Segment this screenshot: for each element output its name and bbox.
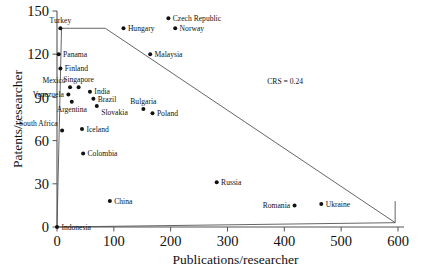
data-point-label: Indonesia — [61, 223, 91, 232]
chart-annotations: CRS = 0.24 — [267, 77, 303, 86]
x-tick-label: 500 — [330, 233, 352, 249]
data-point-dot — [57, 52, 61, 56]
data-point-dot — [166, 16, 170, 20]
data-point-label: Colombia — [88, 149, 119, 158]
data-point-dot — [319, 202, 323, 206]
data-point-label: China — [114, 197, 133, 206]
y-tick-label: 30 — [35, 176, 50, 192]
x-tick-label: 0 — [53, 233, 60, 249]
data-point-dot — [91, 97, 95, 101]
data-point-label: Panama — [63, 50, 88, 59]
data-point-label: Iceland — [86, 125, 109, 134]
data-point-dot — [141, 107, 145, 111]
data-point-label: Ukraine — [326, 200, 351, 209]
data-point-label: Brazil — [98, 95, 117, 104]
data-point-dot — [215, 180, 219, 184]
x-axis-title: Publications/researcher — [173, 252, 299, 267]
data-point-dot — [58, 67, 62, 71]
data-point-label: Slovakia — [101, 108, 128, 117]
data-point-dot — [66, 93, 70, 97]
data-point-label: Czech Republic — [173, 14, 222, 23]
x-tick-label: 300 — [217, 233, 239, 249]
data-point-label: Norway — [180, 24, 205, 33]
data-point-label: Malaysia — [155, 50, 183, 59]
y-axis-title: Patents/researcher — [10, 69, 25, 168]
point-labels: TurkeyPanamaFinlandMexicoSingaporeVenezu… — [19, 14, 351, 232]
x-tick-label: 400 — [273, 233, 295, 249]
data-point-label: Russia — [221, 178, 242, 187]
data-points — [55, 16, 323, 229]
data-point-dot — [60, 129, 64, 133]
data-point-label: Romania — [263, 201, 291, 210]
data-point-dot — [55, 225, 59, 229]
data-point-dot — [108, 199, 112, 203]
data-point-label: Singapore — [63, 75, 94, 84]
data-point-dot — [95, 104, 99, 108]
x-tick-label: 600 — [387, 233, 409, 249]
data-point-label: Venezuela — [33, 90, 65, 99]
data-point-dot — [80, 127, 84, 131]
data-point-dot — [121, 26, 125, 30]
axes: 03060901201500100200300400500600 — [27, 3, 409, 249]
data-point-label: Argentina — [57, 105, 88, 114]
data-point-dot — [150, 111, 154, 115]
data-point-dot — [173, 26, 177, 30]
crs-annotation: CRS = 0.24 — [267, 77, 303, 86]
data-point-dot — [88, 90, 92, 94]
frontier-lower — [57, 223, 395, 227]
data-point-label: Finland — [65, 64, 88, 73]
scatter-chart: 03060901201500100200300400500600 TurkeyP… — [0, 0, 424, 269]
data-point-label: Hungary — [128, 24, 155, 33]
data-point-dot — [77, 85, 81, 89]
data-point-dot — [293, 203, 297, 207]
x-tick-label: 100 — [103, 233, 125, 249]
data-point-dot — [81, 152, 85, 156]
y-tick-label: 0 — [42, 219, 49, 235]
data-point-dot — [70, 100, 74, 104]
y-tick-label: 60 — [35, 133, 50, 149]
data-point-label: Bulgaria — [130, 97, 157, 106]
data-point-dot — [68, 85, 72, 89]
data-point-dot — [58, 26, 62, 30]
data-point-label: Poland — [157, 109, 178, 118]
data-point-dot — [148, 52, 152, 56]
data-point-label: Turkey — [50, 16, 72, 25]
y-tick-label: 150 — [27, 3, 49, 19]
x-tick-label: 200 — [160, 233, 182, 249]
plot-area: 03060901201500100200300400500600 TurkeyP… — [0, 0, 424, 269]
y-tick-label: 120 — [27, 46, 49, 62]
